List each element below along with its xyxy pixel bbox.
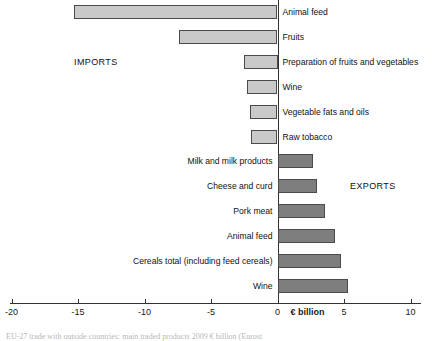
bar-row: Raw tobacco	[0, 130, 432, 144]
bar-row: Animal feed	[0, 5, 432, 19]
figure-caption: EU-27 trade with outside countries: main…	[6, 332, 432, 341]
exports-annotation: EXPORTS	[350, 181, 396, 191]
bar-row: Cereals total (including feed cereals)	[0, 254, 432, 268]
bar-row: Animal feed	[0, 229, 432, 243]
x-axis-line	[10, 303, 421, 304]
x-axis-tick-label: 0	[275, 307, 280, 317]
bar-row: Preparation of fruits and vegetables	[0, 55, 432, 69]
bar-category-label: Wine	[283, 82, 303, 93]
x-axis-tick	[211, 299, 212, 303]
export-bar[interactable]	[278, 179, 318, 193]
x-axis-tick-label: -20	[5, 307, 18, 317]
export-bar[interactable]	[278, 154, 314, 168]
bar-category-label: Fruits	[283, 32, 304, 43]
import-bar[interactable]	[250, 105, 278, 119]
x-axis-tick-label: -5	[207, 307, 215, 317]
bar-category-label: Vegetable fats and oils	[283, 107, 369, 118]
bar-category-label: Animal feed	[227, 231, 272, 242]
x-axis-tick	[145, 299, 146, 303]
bar-row: Wine	[0, 80, 432, 94]
x-axis-tick-label: -15	[71, 307, 84, 317]
bar-category-label: Cheese and curd	[207, 181, 272, 192]
bar-row: Milk and milk products	[0, 154, 432, 168]
x-axis-tick	[12, 299, 13, 303]
x-axis-tick	[278, 299, 279, 303]
import-bar[interactable]	[247, 80, 278, 94]
imports-annotation: IMPORTS	[74, 57, 118, 67]
x-axis-tick	[344, 299, 345, 303]
bar-category-label: Wine	[253, 281, 273, 292]
bar-category-label: Animal feed	[283, 7, 328, 18]
import-bar[interactable]	[244, 55, 277, 69]
x-axis-tick	[411, 299, 412, 303]
bar-row: Vegetable fats and oils	[0, 105, 432, 119]
import-bar[interactable]	[74, 5, 277, 19]
x-axis-tick-label: -10	[138, 307, 151, 317]
bar-row: Fruits	[0, 30, 432, 44]
export-bar[interactable]	[278, 279, 348, 293]
bar-row: Pork meat	[0, 204, 432, 218]
x-axis-tick-label: 5	[341, 307, 346, 317]
bar-category-label: Cereals total (including feed cereals)	[133, 256, 272, 267]
bar-category-label: Raw tobacco	[283, 132, 333, 143]
x-axis-tick-label: 10	[405, 307, 415, 317]
bar-category-label: Preparation of fruits and vegetables	[283, 57, 419, 68]
bar-row: Wine	[0, 279, 432, 293]
export-bar[interactable]	[278, 204, 326, 218]
x-axis-tick	[78, 299, 79, 303]
import-bar[interactable]	[251, 130, 278, 144]
import-bar[interactable]	[179, 30, 277, 44]
export-bar[interactable]	[278, 254, 342, 268]
bar-category-label: Milk and milk products	[187, 156, 272, 167]
axis-unit-label: € billion	[291, 307, 325, 317]
export-bar[interactable]	[278, 229, 335, 243]
bar-category-label: Pork meat	[233, 206, 272, 217]
